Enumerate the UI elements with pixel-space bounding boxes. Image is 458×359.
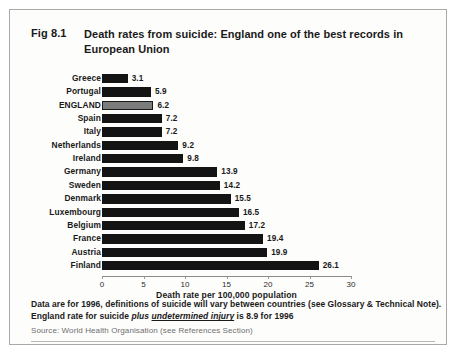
bar-track: 6.2: [102, 101, 448, 110]
bar: [102, 261, 319, 270]
bar: [102, 208, 239, 217]
bar-value-label: 3.1: [132, 74, 144, 83]
x-axis-tick-label: 30: [346, 280, 355, 289]
bar-row: ENGLAND6.2: [10, 99, 448, 112]
bar-track: 7.2: [102, 127, 448, 136]
bar-track: 15.5: [102, 194, 448, 203]
bar-category-label: Sweden: [10, 179, 101, 192]
note-line-2-italic: plus: [131, 311, 151, 321]
bar-chart: Greece3.1Portugal5.9ENGLAND6.2Spain7.2It…: [10, 72, 448, 294]
x-axis-tick-label: 5: [141, 280, 146, 289]
bar-row: Greece3.1: [10, 72, 448, 85]
x-axis-tick-mark: [351, 276, 352, 279]
bar-value-label: 5.9: [155, 87, 167, 96]
x-axis-tick-mark: [268, 276, 269, 279]
bar-row: Spain7.2: [10, 112, 448, 125]
bar-value-label: 15.5: [235, 194, 251, 203]
bar-track: 14.2: [102, 181, 448, 190]
bottom-divider: [31, 341, 435, 342]
bar-track: 3.1: [102, 74, 448, 83]
bar-category-label: ENGLAND: [10, 99, 101, 112]
bar-row: Luxembourg16.5: [10, 206, 448, 219]
bar-highlighted: [102, 101, 153, 110]
bar-value-label: 14.2: [224, 181, 240, 190]
note-line-1: Data are for 1996, definitions of suicid…: [31, 298, 435, 310]
x-axis-tick-mark: [310, 276, 311, 279]
bar: [102, 194, 231, 203]
note-line-2-part1: England rate for suicide: [31, 311, 131, 321]
bar-track: 19.9: [102, 248, 448, 257]
x-axis-tick-label: 20: [263, 280, 272, 289]
note-line-2-italic-underline: undetermined injury: [152, 311, 235, 321]
x-axis-tick-mark: [185, 276, 186, 279]
bar: [102, 181, 220, 190]
figure-notes: Data are for 1996, definitions of suicid…: [31, 298, 435, 335]
bar: [102, 234, 263, 243]
bar-value-label: 6.2: [157, 101, 169, 110]
bar-category-label: Spain: [10, 112, 101, 125]
bar-row: Sweden14.2: [10, 179, 448, 192]
bar-category-label: Belgium: [10, 219, 101, 232]
bar-value-label: 9.8: [187, 154, 199, 163]
bar-row: Germany13.9: [10, 165, 448, 178]
source-line: Source: World Health Organisation (see R…: [31, 326, 435, 335]
x-axis-tick-label: 15: [222, 280, 231, 289]
bar-track: 5.9: [102, 87, 448, 96]
bar-row: Austria19.9: [10, 246, 448, 259]
bar-category-label: Netherlands: [10, 139, 101, 152]
bar-track: 13.9: [102, 167, 448, 176]
bar: [102, 154, 183, 163]
bar-row: Finland26.1: [10, 259, 448, 272]
bar: [102, 74, 128, 83]
figure-number: Fig 8.1: [31, 27, 67, 39]
bar: [102, 167, 217, 176]
bar-track: 17.2: [102, 221, 448, 230]
bar-track: 9.2: [102, 141, 448, 150]
bar: [102, 114, 162, 123]
bar-value-label: 7.2: [166, 127, 178, 136]
bar: [102, 221, 245, 230]
bar-track: 26.1: [102, 261, 448, 270]
bar-category-label: Austria: [10, 246, 101, 259]
x-axis-tick-mark: [102, 276, 103, 279]
bar-track: 16.5: [102, 208, 448, 217]
bar: [102, 127, 162, 136]
bar-track: 19.4: [102, 234, 448, 243]
bar-value-label: 7.2: [166, 114, 178, 123]
bar-row: Ireland9.8: [10, 152, 448, 165]
bar-category-label: Greece: [10, 72, 101, 85]
bar-category-label: Ireland: [10, 152, 101, 165]
bar: [102, 87, 151, 96]
bar-category-label: Denmark: [10, 192, 101, 205]
page-title: Death rates from suicide: England one of…: [84, 27, 434, 57]
x-axis-tick-label: 10: [180, 280, 189, 289]
bar-value-label: 9.2: [182, 141, 194, 150]
bar-value-label: 17.2: [249, 221, 265, 230]
figure-panel: Fig 8.1 Death rates from suicide: Englan…: [9, 9, 447, 345]
bar-category-label: Italy: [10, 125, 101, 138]
bar-row: France19.4: [10, 232, 448, 245]
bar-track: 7.2: [102, 114, 448, 123]
note-line-2: England rate for suicide plus undetermin…: [31, 310, 435, 322]
x-axis-tick-mark: [227, 276, 228, 279]
bar-row: Netherlands9.2: [10, 139, 448, 152]
bar-track: 9.8: [102, 154, 448, 163]
bar-value-label: 26.1: [323, 261, 339, 270]
bar: [102, 141, 178, 150]
bar-row: Italy7.2: [10, 125, 448, 138]
bar-row: Portugal5.9: [10, 85, 448, 98]
bar-row: Belgium17.2: [10, 219, 448, 232]
bar-category-label: Portugal: [10, 85, 101, 98]
bar-value-label: 19.4: [267, 234, 283, 243]
bar-category-label: France: [10, 232, 101, 245]
bar-value-label: 13.9: [221, 167, 237, 176]
bar-value-label: 19.9: [271, 248, 287, 257]
x-axis-tick-label: 0: [100, 280, 105, 289]
bar-category-label: Finland: [10, 259, 101, 272]
bar: [102, 248, 267, 257]
x-axis-tick-label: 25: [305, 280, 314, 289]
x-axis-tick-mark: [144, 276, 145, 279]
note-line-2-part2: is 8.9 for 1996: [234, 311, 293, 321]
bar-category-label: Luxembourg: [10, 206, 101, 219]
bar-value-label: 16.5: [243, 208, 259, 217]
